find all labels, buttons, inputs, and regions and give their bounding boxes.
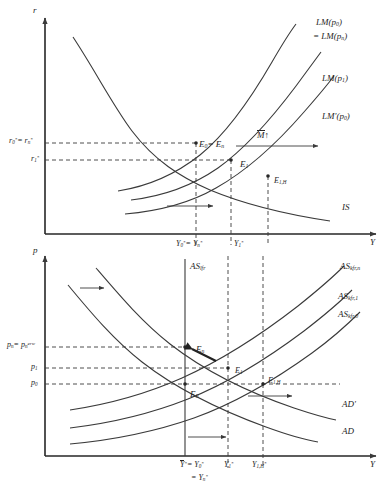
curve-as-kfr-0	[70, 312, 360, 444]
curve-label-as-kfr-1: ASkfr,1	[338, 292, 358, 302]
y-tick-r0-rn: r0*= rn*	[9, 137, 33, 145]
top-y-axis-label: r	[33, 6, 37, 15]
y-tick-p1: p1	[31, 363, 38, 371]
top-axes	[45, 18, 376, 234]
curve-label-as-kfr-n: ASkfr,n	[340, 262, 360, 272]
curve-label-lm-p1: LM(p1)	[322, 74, 348, 84]
x-tick-Ybar: Y*= Y0*	[180, 461, 204, 469]
curve-as-kfr-n	[70, 266, 344, 410]
top-panel-group	[45, 18, 376, 245]
curve-label-is: IS	[342, 203, 350, 212]
equilibrium-label-E1H-top: E1,H	[274, 177, 286, 185]
curve-label-as-kfr-0: ASkfr,0	[338, 310, 358, 320]
bottom-axes	[45, 256, 376, 456]
y-tick-pn: pn= pnerw	[7, 341, 35, 349]
curve-lm-p0-n	[118, 24, 296, 191]
equilibrium-label-E1H-bottom: E1,H	[268, 377, 280, 385]
annotation-money-supply: M↑	[257, 131, 269, 140]
macroeconomics-figure: r Y LM(p0) = LM(pn) LM(p1) LM'(p0) IS M↑…	[0, 0, 386, 500]
equilibrium-label-E0-bottom: E0	[190, 390, 198, 400]
x-tick-Ybar-line2: = Yn*	[191, 474, 208, 482]
equilibrium-label-E0-En: E0= En	[199, 140, 224, 150]
dot-E1	[229, 158, 233, 162]
dot-E1H	[261, 382, 265, 386]
curve-is	[73, 37, 330, 221]
dot-E0	[183, 382, 187, 386]
top-guides	[45, 143, 268, 245]
bottom-panel-group	[45, 256, 376, 468]
equilibrium-label-En: En	[196, 345, 204, 355]
curve-ad-prime	[96, 268, 336, 420]
equilibrium-label-E1-bottom: E1	[235, 367, 242, 375]
top-x-axis-label: Y	[370, 238, 375, 247]
bottom-x-axis-label: Y	[370, 460, 375, 469]
dot-E0-En	[194, 141, 198, 145]
dot-E1	[226, 366, 230, 370]
curve-label-ad: AD	[342, 427, 354, 436]
curve-label-lm-prime-p0: LM'(p0)	[322, 112, 350, 122]
y-tick-r1: r1*	[31, 155, 39, 163]
x-tick-Y1-top: Y1*	[234, 240, 244, 248]
x-tick-Y1-bottom: Y1*	[224, 461, 234, 469]
curve-lm-prime-p0	[125, 76, 334, 214]
dot-E1H	[266, 174, 270, 178]
equilibrium-label-E1-top: E1	[240, 160, 248, 170]
curve-label-ad-prime: AD'	[342, 400, 356, 409]
y-tick-p0: p0	[31, 379, 38, 387]
curve-label-lm-p0: LM(p0)	[316, 18, 342, 28]
curve-label-as-lfr: ASlfr	[190, 262, 205, 272]
x-tick-Y1H-bottom: Y1,H*	[252, 461, 266, 469]
curve-label-lm-pn: = LM(pn)	[313, 32, 347, 42]
dot-En	[183, 345, 187, 349]
bottom-y-axis-label: p	[33, 246, 38, 255]
curve-lm-p1	[131, 52, 321, 200]
x-tick-Y0-Yn: Y0*= Yn*	[176, 240, 202, 248]
